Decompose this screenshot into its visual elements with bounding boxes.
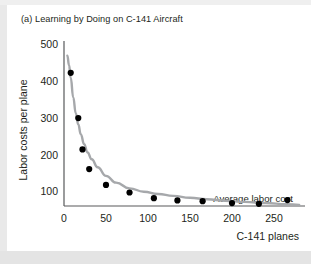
data-point: [284, 197, 290, 203]
data-point: [174, 197, 180, 203]
data-point: [79, 146, 85, 152]
x-tick-label-100: 100: [139, 212, 157, 224]
y-tick-label-300: 300: [40, 112, 58, 124]
data-point: [256, 201, 262, 207]
data-point: [75, 115, 81, 121]
data-point: [68, 70, 74, 76]
average-labor-cost-curve: [67, 56, 299, 205]
data-point: [126, 189, 132, 195]
data-point: [103, 182, 109, 188]
x-tick-label-150: 150: [181, 212, 199, 224]
data-point: [86, 166, 92, 172]
x-axis-title: C-141 planes: [237, 230, 299, 242]
data-point-group: [68, 70, 291, 207]
y-axis-title: Labor costs per plane: [17, 79, 29, 180]
x-tick-label-0: 0: [61, 212, 67, 224]
data-point: [151, 195, 157, 201]
y-tick-label-500: 500: [40, 38, 58, 50]
figure-root: (a) Learning by Doing on C-141 Aircraft …: [0, 0, 311, 264]
chart-plot-area: Labor costs per plane 500 400 300 200 10…: [0, 0, 311, 264]
x-tick-label-200: 200: [223, 212, 241, 224]
data-point: [229, 200, 235, 206]
x-tick-label-250: 250: [265, 212, 283, 224]
y-tick-label-400: 400: [40, 75, 58, 87]
data-point: [200, 198, 206, 204]
y-tick-label-100: 100: [40, 185, 58, 197]
x-tick-label-50: 50: [100, 212, 112, 224]
y-tick-label-200: 200: [40, 149, 58, 161]
